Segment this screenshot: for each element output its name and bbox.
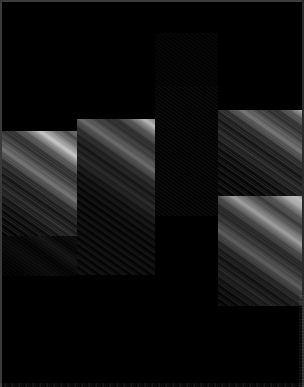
- bottom-noise-strip: [0, 383, 304, 387]
- frame-edge-top: [0, 0, 304, 2]
- tile-center-bright: [77, 119, 155, 275]
- tile-right-lower: [218, 196, 302, 306]
- ringlet-bands: [155, 86, 218, 216]
- ringlet-bands: [218, 196, 302, 306]
- ringlet-bands: [2, 236, 77, 276]
- frame-edge-right: [302, 0, 304, 387]
- ringlet-bands: [77, 119, 155, 275]
- ring-mosaic-image: [0, 0, 304, 387]
- right-noise-strip: [299, 295, 304, 387]
- tile-left-faint-lower: [2, 236, 77, 276]
- tile-center-dark-mid: [155, 86, 218, 216]
